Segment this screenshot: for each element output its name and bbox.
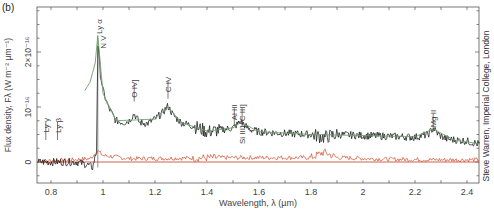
x-tick-label: 1 <box>100 187 105 197</box>
y-tick-label: 2×10⁻¹⁶ <box>23 37 33 67</box>
x-tick-label: 2 <box>360 187 365 197</box>
line-annotation-label: Ly β <box>54 118 63 133</box>
y-tick-label: 10⁻¹⁶ <box>23 97 33 118</box>
model-fit-line <box>85 36 480 144</box>
x-axis-label: Wavelength, λ (µm) <box>219 198 297 208</box>
x-tick-label: 1.4 <box>201 187 214 197</box>
line-annotation-label: Mg II <box>429 110 438 128</box>
line-annotation-label: C IV <box>164 76 173 92</box>
image-credit: Steve Warren, Imperial College, London <box>481 31 491 182</box>
observed-spectrum-line <box>38 46 480 170</box>
x-tick-label: 2.4 <box>461 187 474 197</box>
x-tick-label: 1.2 <box>149 187 162 197</box>
error-spectrum-line <box>38 149 479 163</box>
line-annotation-label: Ly α <box>95 19 104 34</box>
x-tick-label: 1.8 <box>305 187 318 197</box>
y-axis-label: Flux density, Fλ (W m⁻² µm⁻¹) <box>3 38 13 153</box>
x-tick-label: 2.2 <box>409 187 422 197</box>
spectrum-chart: 0.811.21.41.61.822.22.4Wavelength, λ (µm… <box>0 0 494 213</box>
y-tick-label: 0 <box>23 159 33 164</box>
line-annotation-label: N V <box>99 35 108 49</box>
line-annotation-label: Si III]+C III] <box>238 104 247 144</box>
line-annotation-label: Ly γ <box>42 118 51 132</box>
x-tick-label: 1.6 <box>253 187 266 197</box>
x-tick-label: 0.8 <box>45 187 58 197</box>
line-annotation-label: O IV] <box>130 80 139 98</box>
